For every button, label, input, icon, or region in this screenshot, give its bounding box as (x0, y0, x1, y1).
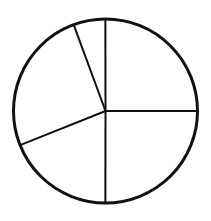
pie-chart (0, 0, 211, 221)
